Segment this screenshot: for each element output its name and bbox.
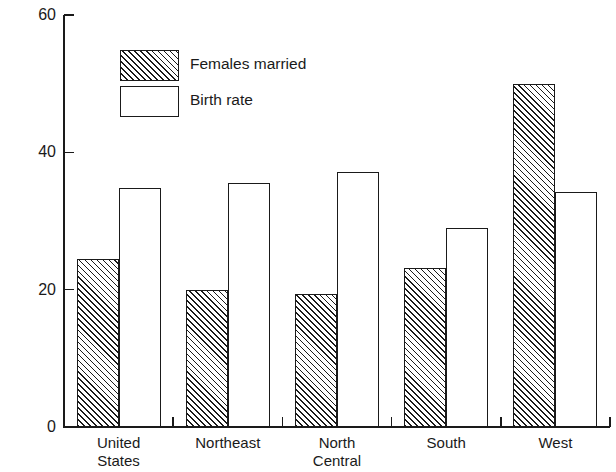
bar-3-series-1: [446, 228, 488, 427]
x-tick-mark-2: [282, 417, 284, 427]
x-tick-mark-5: [609, 417, 611, 427]
y-tick-label-60: 60: [8, 7, 56, 23]
y-axis-line: [63, 15, 65, 428]
legend-label-0: Females married: [190, 55, 306, 73]
bar-4-series-1: [555, 192, 597, 427]
y-tick-label-40: 40: [8, 144, 56, 160]
bar-2-series-1: [337, 172, 379, 427]
bar-1-series-1: [228, 183, 270, 427]
y-tick-mark-40: [64, 152, 74, 154]
bar-chart: Per Cent Increase 6040200 United StatesN…: [0, 0, 616, 472]
y-tick-mark-60: [64, 14, 74, 16]
bar-0-series-1: [119, 188, 161, 427]
bar-1-series-0: [186, 290, 228, 427]
x-tick-mark-1: [172, 417, 174, 427]
bar-0-series-0: [77, 259, 119, 427]
bar-3-series-0: [404, 268, 446, 427]
y-tick-label-0: 0: [8, 419, 56, 435]
y-tick-mark-20: [64, 289, 74, 291]
x-tick-mark-3: [391, 417, 393, 427]
bar-4-series-0: [513, 84, 555, 427]
x-group-label-4: West: [485, 434, 616, 452]
x-tick-mark-4: [500, 417, 502, 427]
legend-swatch-hatched: [120, 50, 179, 81]
y-tick-label-20: 20: [8, 282, 56, 298]
legend-swatch-white: [120, 86, 179, 117]
legend-label-1: Birth rate: [190, 91, 253, 109]
bar-2-series-0: [295, 294, 337, 427]
y-tick-mark-0: [64, 426, 74, 428]
